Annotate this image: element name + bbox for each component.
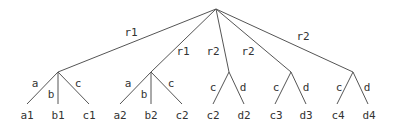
leaf-label: d4 bbox=[362, 110, 375, 122]
tree-diagram: r1r1r2r2r2aa1bb1cc1aa2bb2cc2cc2dd2cc3dd3… bbox=[0, 0, 393, 127]
leaf-label: c4 bbox=[331, 110, 344, 122]
leaf-label: c2 bbox=[175, 110, 188, 122]
leaf-label: a2 bbox=[113, 110, 126, 122]
leaf-label: d3 bbox=[299, 110, 312, 122]
edge-label: d bbox=[364, 82, 371, 94]
edge-label: c bbox=[273, 82, 280, 94]
root-edge bbox=[151, 9, 216, 72]
edge-label: b bbox=[141, 89, 148, 101]
edge-label: c bbox=[210, 82, 217, 94]
leaf-label: b2 bbox=[144, 110, 157, 122]
leaf-edge bbox=[151, 72, 182, 104]
root-edge bbox=[58, 9, 216, 72]
edge-label: c bbox=[75, 78, 82, 90]
leaf-label: c2 bbox=[206, 110, 219, 122]
edge-label: r1 bbox=[176, 46, 189, 58]
edge-label: a bbox=[125, 78, 132, 90]
edge-label: c bbox=[168, 78, 175, 90]
edge-label: r2 bbox=[296, 31, 309, 43]
tree-edges bbox=[0, 0, 393, 127]
leaf-label: c1 bbox=[82, 110, 95, 122]
edge-label: r2 bbox=[241, 46, 254, 58]
root-edge bbox=[216, 9, 353, 72]
edge-label: r1 bbox=[124, 27, 137, 39]
leaf-edge bbox=[58, 72, 89, 104]
edge-label: d bbox=[303, 82, 310, 94]
edge-label: d bbox=[240, 82, 247, 94]
edge-label: c bbox=[336, 82, 343, 94]
edge-label: b bbox=[48, 89, 55, 101]
edge-label: a bbox=[32, 78, 39, 90]
leaf-label: c3 bbox=[269, 110, 282, 122]
leaf-label: b1 bbox=[51, 110, 64, 122]
leaf-label: d2 bbox=[237, 110, 250, 122]
edge-label: r2 bbox=[206, 46, 219, 58]
leaf-label: a1 bbox=[20, 110, 33, 122]
